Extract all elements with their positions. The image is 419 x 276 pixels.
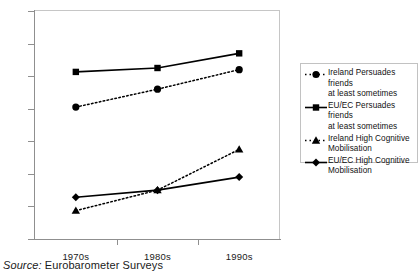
circle-data-point bbox=[154, 86, 161, 93]
legend-item: EU/EC High CognitiveMobilisation bbox=[304, 156, 415, 177]
legend-label-line-2: Mobilisation bbox=[328, 144, 410, 155]
legend-item: Ireland Persuades friendsat least someti… bbox=[304, 68, 415, 100]
circle-marker-icon bbox=[304, 69, 328, 80]
square-data-point bbox=[236, 50, 242, 56]
legend-label-line-1: EU/EC High Cognitive bbox=[328, 156, 410, 167]
series-2 bbox=[73, 50, 243, 75]
legend-label-line-1: Ireland High Cognitive bbox=[328, 134, 410, 145]
series-3 bbox=[72, 145, 244, 214]
x-axis-tick-label: 1990s bbox=[209, 251, 269, 262]
source-value: Eurobarometer Surveys bbox=[45, 259, 163, 271]
diamond-data-point bbox=[72, 193, 80, 201]
square-marker-icon bbox=[304, 102, 328, 113]
series-plot bbox=[0, 0, 288, 252]
diamond-data-point bbox=[312, 158, 320, 166]
series-1 bbox=[72, 66, 243, 111]
chart-legend: Ireland Persuades friendsat least someti… bbox=[300, 63, 418, 163]
triangle-data-point bbox=[72, 206, 80, 213]
legend-item-label: EU/EC Persuades friendsat least sometime… bbox=[328, 101, 415, 133]
legend-label-line-1: Ireland Persuades friends bbox=[328, 68, 415, 89]
circle-data-point bbox=[236, 66, 243, 73]
series-line bbox=[76, 149, 239, 210]
triangle-marker-icon bbox=[304, 135, 328, 146]
legend-label-line-2: at least sometimes bbox=[328, 89, 415, 100]
source-caption: Source: Eurobarometer Surveys bbox=[3, 259, 163, 271]
triangle-data-point bbox=[235, 145, 243, 152]
circle-data-point bbox=[72, 103, 79, 110]
legend-item-label: Ireland High CognitiveMobilisation bbox=[328, 134, 410, 155]
square-data-point bbox=[154, 65, 160, 71]
legend-label-line-2: at least sometimes bbox=[328, 122, 415, 133]
legend-item: Ireland High CognitiveMobilisation bbox=[304, 134, 415, 155]
diamond-data-point bbox=[235, 173, 243, 181]
legend-label-line-1: EU/EC Persuades friends bbox=[328, 101, 415, 122]
series-4 bbox=[72, 173, 243, 201]
square-data-point bbox=[73, 69, 79, 75]
diamond-marker-icon bbox=[304, 157, 328, 168]
figure-root: 706050403020100 1970s1980s1990s Ireland … bbox=[0, 0, 419, 276]
square-data-point bbox=[313, 104, 319, 110]
legend-label-line-2: Mobilisation bbox=[328, 166, 410, 177]
legend-item: EU/EC Persuades friendsat least sometime… bbox=[304, 101, 415, 133]
source-label: Source: bbox=[3, 259, 42, 271]
legend-item-label: EU/EC High CognitiveMobilisation bbox=[328, 156, 410, 177]
chart-panel: 706050403020100 1970s1980s1990s bbox=[0, 0, 288, 252]
legend-item-label: Ireland Persuades friendsat least someti… bbox=[328, 68, 415, 100]
circle-data-point bbox=[312, 71, 319, 78]
